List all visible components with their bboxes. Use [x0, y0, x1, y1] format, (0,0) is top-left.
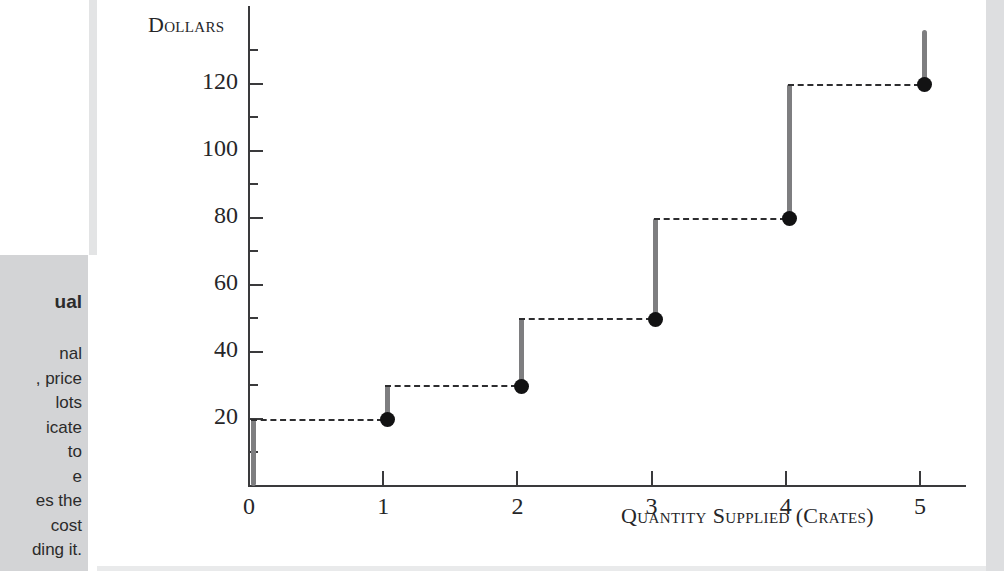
data-point-marker: [782, 211, 797, 226]
step-tread: [251, 419, 383, 421]
step-riser: [519, 318, 524, 385]
y-axis-minor-tick: [250, 384, 258, 386]
step-riser: [922, 30, 927, 84]
y-axis-minor-tick: [250, 116, 258, 118]
y-axis-tick: [250, 83, 263, 85]
x-axis-tick: [382, 471, 384, 485]
step-riser: [251, 419, 256, 486]
x-axis-tick-label: 4: [766, 493, 806, 520]
y-axis-tick-label: 60: [178, 269, 238, 296]
step-tread: [519, 318, 651, 320]
y-axis-minor-tick: [250, 183, 258, 185]
y-axis-tick-label: 20: [178, 403, 238, 430]
y-axis-minor-tick: [250, 49, 258, 51]
data-point-marker: [380, 412, 395, 427]
x-axis-tick: [785, 471, 787, 485]
y-axis-tick: [250, 351, 263, 353]
plot-area: 20406080100120012345: [0, 0, 1004, 571]
y-axis-tick: [250, 284, 263, 286]
step-riser: [787, 84, 792, 218]
y-axis-minor-tick: [250, 317, 258, 319]
x-axis-tick: [651, 471, 653, 485]
x-axis-tick: [516, 471, 518, 485]
y-axis-tick-label: 100: [178, 135, 238, 162]
x-axis-tick-label: 1: [363, 493, 403, 520]
data-point-marker: [514, 379, 529, 394]
data-point-marker: [917, 77, 932, 92]
x-axis-tick-label: 5: [900, 493, 940, 520]
supply-curve-figure: Dollars Quantity Supplied (Crates) 20406…: [0, 0, 1004, 571]
y-axis-tick-label: 120: [178, 68, 238, 95]
x-axis-tick-label: 2: [497, 493, 537, 520]
step-tread: [654, 218, 786, 220]
y-axis-minor-tick: [250, 250, 258, 252]
x-axis-tick-label: 0: [229, 493, 269, 520]
x-axis-tick-label: 3: [632, 493, 672, 520]
y-axis-line: [248, 6, 250, 487]
data-point-marker: [648, 312, 663, 327]
y-axis-tick-label: 80: [178, 202, 238, 229]
y-axis-tick: [250, 150, 263, 152]
y-axis-tick: [250, 217, 263, 219]
step-riser: [653, 218, 658, 319]
x-axis-tick: [919, 471, 921, 485]
step-tread: [385, 385, 517, 387]
y-axis-tick-label: 40: [178, 336, 238, 363]
x-axis-line: [248, 485, 966, 487]
step-tread: [788, 84, 920, 86]
